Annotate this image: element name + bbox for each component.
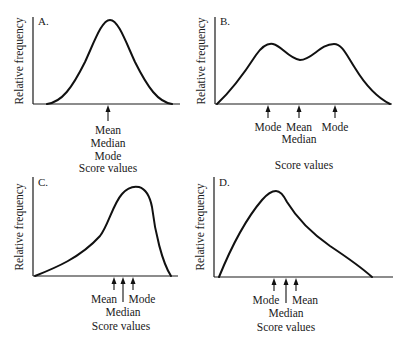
panel-a: A. Relative frequency Mean Median Mode S… bbox=[13, 15, 180, 174]
curve-negative-skew bbox=[35, 187, 171, 276]
arrow-mean bbox=[294, 278, 299, 291]
marker-mode: Mode bbox=[95, 150, 122, 162]
y-axis-label: Relative frequency bbox=[195, 17, 208, 104]
curve-bimodal bbox=[217, 44, 390, 104]
arrow-median bbox=[284, 278, 289, 303]
marker-mode: Mode bbox=[253, 294, 280, 306]
panel-c: C. Relative frequency Mean Mode Median S… bbox=[13, 176, 178, 332]
arrow-mean-median bbox=[297, 105, 302, 118]
arrow-mode bbox=[272, 278, 277, 291]
panel-d: D. Relative frequency Mode Mean Median S… bbox=[194, 176, 393, 333]
panel-letter: B. bbox=[220, 15, 230, 27]
marker-mean: Mean bbox=[292, 294, 318, 306]
x-axis-label: Score values bbox=[92, 320, 151, 332]
marker-median: Median bbox=[105, 306, 140, 318]
y-axis-label: Relative frequency bbox=[13, 17, 26, 104]
panel-letter: A. bbox=[38, 15, 49, 27]
arrow-center bbox=[106, 105, 111, 121]
marker-mean: Mean bbox=[286, 121, 312, 133]
arrow-mode-right bbox=[333, 105, 338, 118]
y-axis-label: Relative frequency bbox=[13, 183, 26, 270]
curve-normal bbox=[47, 20, 172, 104]
curve-positive-skew bbox=[219, 191, 372, 277]
distribution-figure: A. Relative frequency Mean Median Mode S… bbox=[0, 0, 405, 345]
y-axis-label: Relative frequency bbox=[194, 183, 207, 270]
marker-mode: Mode bbox=[129, 293, 156, 305]
marker-mode-right: Mode bbox=[322, 121, 349, 133]
marker-median: Median bbox=[281, 133, 316, 145]
marker-median: Median bbox=[90, 137, 125, 149]
arrow-mode bbox=[131, 277, 136, 290]
arrow-mean bbox=[112, 277, 117, 290]
marker-mean: Mean bbox=[95, 124, 121, 136]
panel-letter: C. bbox=[38, 176, 48, 188]
x-axis-label: Score values bbox=[79, 162, 138, 174]
arrow-median bbox=[121, 277, 126, 302]
marker-mode-left: Mode bbox=[255, 121, 282, 133]
x-axis-label: Score values bbox=[275, 159, 334, 171]
marker-median: Median bbox=[268, 307, 303, 319]
marker-mean: Mean bbox=[91, 293, 117, 305]
x-axis-label: Score values bbox=[257, 321, 316, 333]
arrow-mode-left bbox=[266, 105, 271, 118]
panel-b: B. Relative frequency Mode Mean Median M… bbox=[195, 15, 392, 171]
panel-letter: D. bbox=[219, 176, 230, 188]
